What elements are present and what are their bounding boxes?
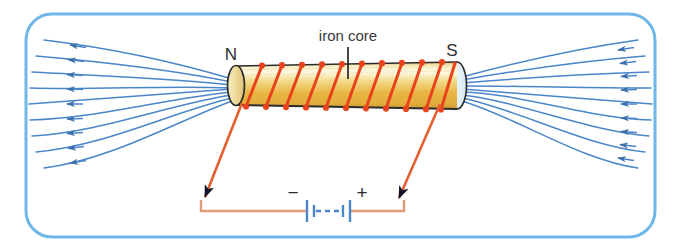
battery-cell-left xyxy=(307,200,314,222)
field-arrows-right xyxy=(618,48,637,161)
north-pole-label: N xyxy=(225,45,237,64)
figure-border xyxy=(26,14,655,237)
battery-negative-label: − xyxy=(287,182,298,203)
lead-wire-right xyxy=(399,104,440,198)
lead-wire-left xyxy=(205,103,242,197)
battery-cell-right xyxy=(343,200,350,222)
field-lines-left xyxy=(29,40,232,168)
iron-core-label: iron core xyxy=(319,27,377,44)
south-pole-label: S xyxy=(446,41,457,60)
core-end-cap-north xyxy=(228,66,245,106)
lead-wires xyxy=(185,103,440,207)
electromagnet-diagram: N S iron core − + xyxy=(0,0,681,249)
battery-circuit xyxy=(201,200,404,222)
diagram-canvas: N S iron core − + xyxy=(0,0,681,249)
battery-positive-label: + xyxy=(356,182,367,203)
